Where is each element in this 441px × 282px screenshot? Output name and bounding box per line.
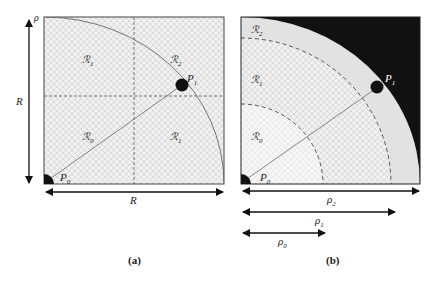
point-p1-marker-b — [371, 81, 384, 94]
width-label: R — [129, 194, 137, 206]
caption-a: (a) — [128, 254, 141, 267]
panel-b: ℛ2 ℛ1 ℛ0 P1 P0 ρ2 ρ1 ρ0 (b) — [241, 17, 420, 267]
rho0-label: ρ0 — [277, 235, 287, 250]
panel-a: ρ ℛ1 ℛ2 ℛ0 ℛ1 P1 P0 R R (a) — [15, 12, 224, 267]
rho1-label: ρ1 — [314, 214, 324, 229]
height-label: R — [15, 95, 23, 107]
rho2-label: ρ2 — [326, 193, 336, 208]
caption-b: (b) — [326, 254, 340, 267]
figure: ρ ℛ1 ℛ2 ℛ0 ℛ1 P1 P0 R R (a) ℛ2 ℛ1 ℛ0 — [0, 0, 441, 282]
corner-rho-label: ρ — [33, 12, 39, 23]
